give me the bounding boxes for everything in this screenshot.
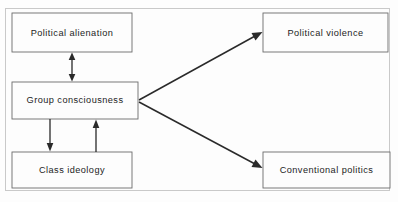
edge-line-consciousness-conventional [139, 102, 256, 165]
arrow-head-down-consciousness [69, 74, 76, 82]
edge-consciousness-conventional [139, 102, 263, 168]
edge-ideology-consciousness [93, 120, 100, 153]
edge-consciousness-violence [139, 32, 263, 100]
node-label-group-consciousness: Group consciousness [27, 95, 124, 105]
edge-line-consciousness-violence [139, 36, 256, 101]
node-political-alienation: Political alienation [12, 13, 132, 52]
arrow-head-up-consciousness [93, 120, 100, 129]
arrow-head-political-violence [252, 32, 263, 40]
node-label-political-alienation: Political alienation [31, 28, 114, 38]
node-class-ideology: Class ideology [12, 152, 132, 188]
node-label-political-violence: Political violence [287, 28, 363, 38]
node-label-class-ideology: Class ideology [39, 165, 105, 175]
diagram-svg: Political alienation Group consciousness… [0, 0, 398, 202]
node-conventional-politics: Conventional politics [263, 152, 390, 188]
edge-consciousness-ideology [47, 119, 54, 152]
node-label-conventional-politics: Conventional politics [280, 165, 374, 175]
node-group-consciousness: Group consciousness [12, 82, 138, 119]
edge-alienation-consciousness [69, 53, 76, 82]
diagram-canvas: Political alienation Group consciousness… [0, 0, 398, 202]
arrow-head-down-ideology [47, 143, 54, 152]
arrow-head-up-alienation [69, 53, 76, 61]
node-political-violence: Political violence [263, 13, 388, 52]
